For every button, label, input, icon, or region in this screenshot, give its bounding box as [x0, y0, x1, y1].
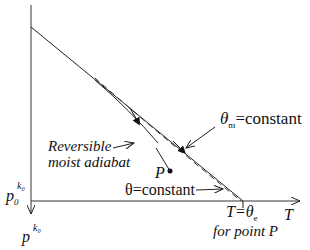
x-axis-label: T	[284, 207, 293, 223]
theta-constant-label: θ=constant	[125, 182, 195, 198]
reversible-label-2: moist adiabat	[48, 155, 130, 170]
y-axis-sup: k₀	[33, 223, 41, 233]
theta-m-label: θm=constant	[220, 110, 302, 130]
reversible-label-1: Reversible	[48, 139, 111, 154]
moist-adiabat-curve	[95, 80, 158, 143]
y-axis-label: p	[22, 229, 30, 245]
y-origin-sup: k₀	[17, 181, 25, 191]
theta-e-label: T=θe	[226, 204, 258, 223]
for-point-label: for point P	[213, 224, 278, 239]
point-p-label: P	[155, 165, 165, 181]
